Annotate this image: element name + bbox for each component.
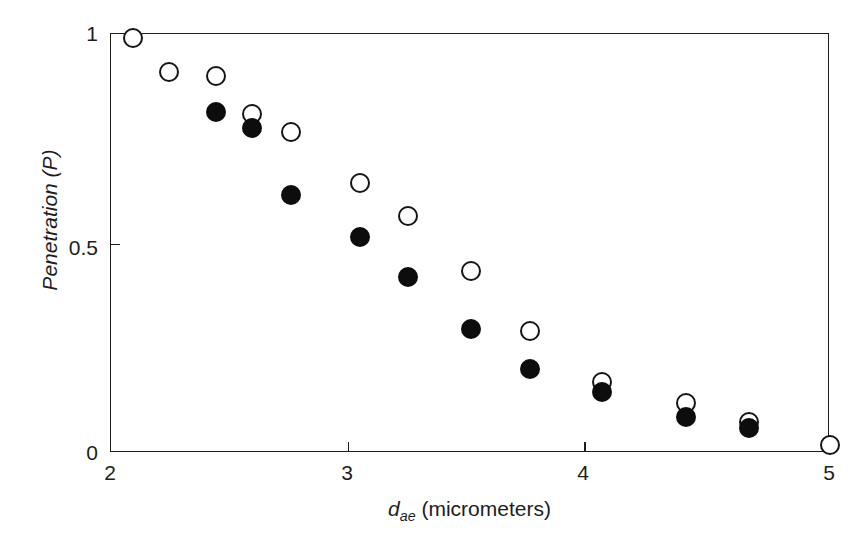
data-point-open (206, 66, 226, 86)
data-point-open (350, 173, 370, 193)
x-tick-3 (348, 442, 350, 451)
scatter-plot-figure: 1 0.5 0 2 3 4 5 dae (micrometers) Penetr… (0, 0, 858, 547)
data-point-open (520, 321, 540, 341)
data-point-filled (520, 359, 540, 379)
xtick-label-3: 3 (341, 462, 353, 483)
data-point-filled (676, 407, 696, 427)
ytick-label-0: 0 (60, 442, 98, 463)
data-point-filled (739, 418, 759, 438)
x-axis-label: dae (micrometers) (110, 497, 829, 524)
data-point-open (398, 206, 418, 226)
data-point-filled (281, 185, 301, 205)
x-tick-4 (584, 442, 586, 451)
xtick-label-4: 4 (577, 462, 589, 483)
data-point-filled (242, 118, 262, 138)
data-point-open (159, 62, 179, 82)
xtick-label-5: 5 (823, 462, 835, 483)
y-axis-label-text: Penetration (P) (38, 149, 61, 290)
data-point-filled (461, 319, 481, 339)
x-axis-label-symbol: d (388, 497, 400, 520)
data-point-filled (350, 227, 370, 247)
data-point-filled (592, 382, 612, 402)
data-point-filled (398, 267, 418, 287)
x-axis-label-units: (micrometers) (416, 497, 551, 520)
data-point-filled (206, 102, 226, 122)
plot-area (110, 33, 829, 452)
data-point-open (820, 435, 840, 455)
xtick-label-2: 2 (104, 462, 116, 483)
data-point-open (281, 122, 301, 142)
y-axis-label: Penetration (P) (38, 100, 62, 340)
ytick-label-1: 1 (60, 23, 98, 44)
x-axis-label-subscript: ae (400, 508, 416, 524)
data-point-open (461, 261, 481, 281)
y-tick-0-5 (111, 244, 120, 246)
data-point-open (123, 28, 143, 48)
